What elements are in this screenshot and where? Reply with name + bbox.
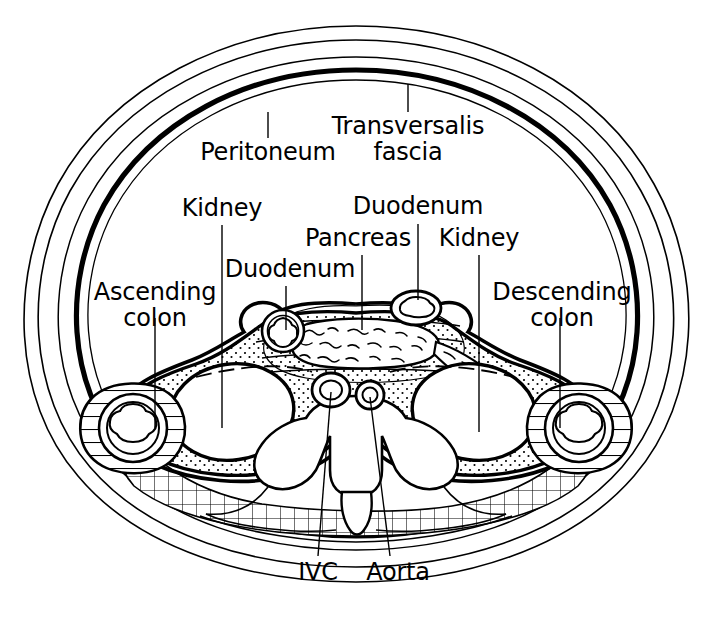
label-transversalis-fascia: Transversalis fascia — [303, 114, 513, 166]
duodenum-left — [262, 310, 304, 352]
label-ascending-colon: Ascending colon — [70, 280, 240, 332]
ivc — [312, 373, 350, 407]
label-transversalis-line1: Transversalis — [332, 112, 485, 140]
label-pancreas: Pancreas — [305, 226, 411, 252]
label-ivc: IVC — [298, 560, 338, 586]
duodenum-right — [391, 291, 441, 325]
label-kidney-left: Kidney — [182, 196, 263, 222]
label-ascending-line2: colon — [123, 304, 186, 332]
label-descending-line1: Descending — [492, 278, 631, 306]
label-duodenum-upper: Duodenum — [353, 194, 484, 220]
label-descending-line2: colon — [530, 304, 593, 332]
label-descending-colon: Descending colon — [472, 280, 652, 332]
aorta — [356, 381, 384, 409]
label-ascending-line1: Ascending — [94, 278, 217, 306]
label-kidney-right: Kidney — [439, 226, 520, 252]
anatomy-figure: Peritoneum Transversalis fascia Kidney D… — [0, 0, 711, 629]
descending-colon — [527, 383, 632, 473]
label-transversalis-line2: fascia — [373, 138, 442, 166]
ascending-colon — [80, 383, 185, 473]
label-aorta: Aorta — [366, 560, 430, 586]
label-duodenum-lower: Duodenum — [225, 257, 356, 283]
